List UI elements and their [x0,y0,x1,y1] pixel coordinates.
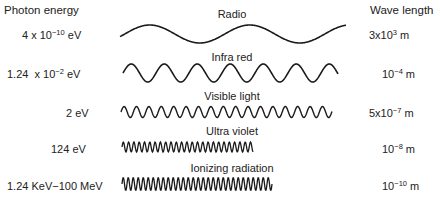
wave-ionizing [122,178,272,190]
waves-canvas [0,0,440,197]
wave-ultraviolet [122,142,253,152]
wave-infrared [123,64,338,82]
wave-radio [120,25,346,43]
wave-visible [121,107,332,118]
